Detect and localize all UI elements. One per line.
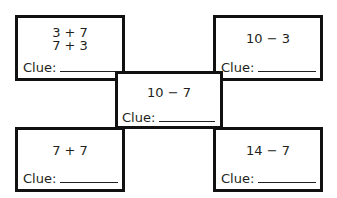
clue-field[interactable]: Clue: (221, 61, 316, 74)
clue-field[interactable]: Clue: (23, 61, 118, 74)
fact-box-bottom-left: 7 + 7 Clue: (15, 127, 125, 192)
expression-line-1: 14 − 7 (216, 144, 320, 157)
clue-field[interactable]: Clue: (23, 172, 118, 185)
clue-blank-line[interactable] (159, 121, 215, 122)
clue-label: Clue: (23, 171, 56, 186)
clue-label: Clue: (23, 60, 56, 75)
fact-box-top-left: 3 + 7 7 + 3 Clue: (15, 15, 125, 81)
fact-box-bottom-right: 14 − 7 Clue: (213, 127, 323, 192)
expression-line-1: 10 − 7 (118, 86, 220, 99)
clue-field[interactable]: Clue: (221, 172, 316, 185)
fact-box-top-right: 10 − 3 Clue: (213, 15, 323, 81)
clue-label: Clue: (221, 171, 254, 186)
clue-label: Clue: (221, 60, 254, 75)
clue-blank-line[interactable] (258, 71, 316, 72)
expression-line-1: 10 − 3 (216, 32, 320, 45)
expression-line-2: 7 + 3 (18, 39, 122, 52)
fact-box-center: 10 − 7 Clue: (115, 71, 223, 129)
clue-field[interactable]: Clue: (122, 111, 215, 124)
clue-blank-line[interactable] (60, 71, 118, 72)
expression-line-1: 7 + 7 (18, 144, 122, 157)
clue-label: Clue: (122, 110, 155, 125)
clue-blank-line[interactable] (258, 182, 316, 183)
clue-blank-line[interactable] (60, 182, 118, 183)
